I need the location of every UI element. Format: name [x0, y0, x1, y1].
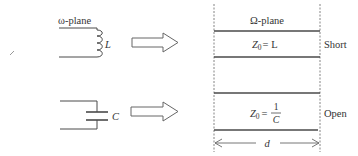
fraction-numerator: 1 — [274, 102, 279, 112]
short-termination-label: Short — [324, 39, 347, 50]
open-termination-label: Open — [324, 108, 347, 119]
inductor-label: L — [104, 39, 111, 50]
svg-text:Z0=: Z0= — [250, 108, 268, 121]
open-impedance-equation: Z0= 1 C — [250, 102, 281, 125]
omega-plane-label: ω-plane — [58, 15, 91, 26]
capacitor-circuit — [60, 101, 108, 129]
inductor-circuit — [59, 28, 102, 57]
diagram-canvas: ω-plane L C Ω-plane Z0= L Short Z0= 1 — [0, 0, 358, 156]
fraction-denominator: C — [273, 114, 280, 125]
short-impedance-equation: Z0= L — [252, 39, 278, 52]
transform-arrow-icon — [131, 102, 178, 121]
Omega-plane-label: Ω-plane — [250, 15, 284, 26]
length-label: d — [264, 138, 270, 149]
capacitor-label: C — [112, 111, 120, 122]
stray-mark — [10, 51, 14, 55]
transform-arrow-icon — [132, 33, 178, 52]
inductor-coil-icon — [97, 28, 102, 57]
